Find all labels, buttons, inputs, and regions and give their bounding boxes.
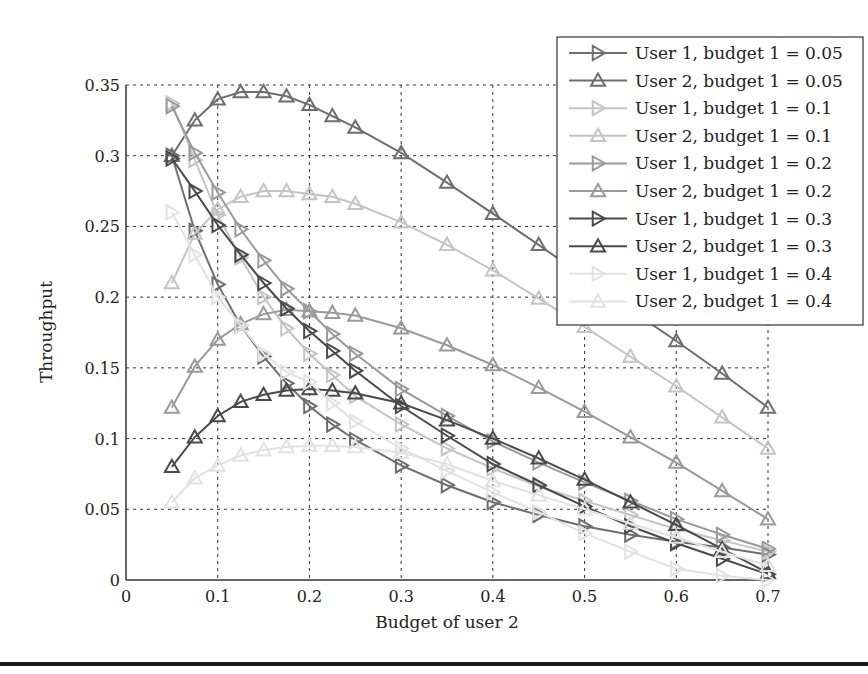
y-tick-label: 0.2 [95, 288, 120, 307]
series-line [165, 382, 775, 578]
x-axis-label: Budget of user 2 [375, 612, 519, 632]
legend-label: User 1, budget 1 = 0.1 [635, 98, 832, 118]
legend-label: User 2, budget 1 = 0.4 [635, 291, 832, 311]
x-axis-ticks: 00.10.20.30.40.50.60.7 [121, 587, 781, 606]
y-tick-label: 0.3 [95, 147, 120, 166]
x-tick-label: 0.4 [480, 587, 505, 606]
x-tick-label: 0.7 [755, 587, 780, 606]
bottom-divider [0, 662, 868, 666]
y-tick-label: 0.25 [84, 217, 120, 236]
legend-label: User 2, budget 1 = 0.1 [635, 126, 832, 146]
x-tick-label: 0.2 [297, 587, 322, 606]
x-tick-label: 0.5 [572, 587, 597, 606]
y-axis-ticks: 00.050.10.150.20.250.30.35 [84, 76, 120, 590]
throughput-chart: 00.10.20.30.40.50.60.7 00.050.10.150.20.… [0, 0, 868, 674]
legend-label: User 1, budget 1 = 0.2 [635, 153, 832, 173]
x-tick-label: 0.6 [664, 587, 689, 606]
series-line [165, 303, 775, 525]
legend: User 1, budget 1 = 0.05User 2, budget 1 … [557, 37, 863, 325]
legend-label: User 2, budget 1 = 0.2 [635, 181, 832, 201]
y-tick-label: 0.05 [84, 500, 120, 519]
x-tick-label: 0 [121, 587, 131, 606]
legend-label: User 1, budget 1 = 0.3 [635, 209, 832, 229]
x-tick-label: 0.3 [388, 587, 413, 606]
legend-label: User 1, budget 1 = 0.4 [635, 264, 832, 284]
y-tick-label: 0 [110, 571, 120, 590]
y-tick-label: 0.1 [95, 430, 120, 449]
legend-label: User 2, budget 1 = 0.05 [635, 71, 843, 91]
x-tick-label: 0.1 [205, 587, 230, 606]
y-tick-label: 0.15 [84, 359, 120, 378]
y-axis-label: Throughput [36, 281, 56, 383]
y-tick-label: 0.35 [84, 76, 120, 95]
legend-label: User 1, budget 1 = 0.05 [635, 43, 843, 63]
legend-label: User 2, budget 1 = 0.3 [635, 236, 832, 256]
